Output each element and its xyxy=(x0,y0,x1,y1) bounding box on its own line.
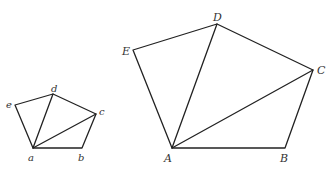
vertex-label-D: D xyxy=(212,11,222,24)
vertex-label-a: a xyxy=(28,152,34,163)
vertex-label-e: e xyxy=(6,99,12,110)
diagonal-ac xyxy=(33,114,96,148)
similar-pentagons-diagram: a b c d e A B C D E xyxy=(0,0,330,173)
vertex-label-C: C xyxy=(317,64,326,77)
vertex-label-A: A xyxy=(163,152,172,165)
diagonal-AC xyxy=(172,70,313,148)
vertex-label-B: B xyxy=(279,152,288,165)
large-pentagon-outline xyxy=(133,24,313,148)
vertex-label-b: b xyxy=(78,152,84,163)
diagonal-AD xyxy=(172,24,217,148)
diagram-canvas: a b c d e A B C D E xyxy=(0,0,330,173)
large-pentagon: A B C D E xyxy=(121,11,326,165)
diagonal-ad xyxy=(33,94,53,148)
vertex-label-d: d xyxy=(51,83,57,94)
vertex-label-E: E xyxy=(121,45,130,58)
vertex-label-c: c xyxy=(99,106,105,117)
small-pentagon: a b c d e xyxy=(6,83,105,163)
